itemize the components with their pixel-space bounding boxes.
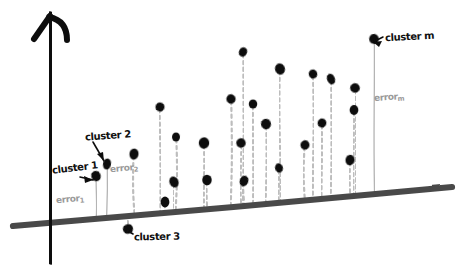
data-point-24 [349,105,358,115]
y-axis-line [50,14,51,262]
stem-21 [321,125,322,199]
data-point-22 [325,72,336,85]
data-point-5 [154,101,166,113]
data-point-1 [90,170,102,183]
data-point-9 [198,137,210,149]
data-point-20 [308,69,319,80]
stem-25 [350,162,351,196]
baseline-layer [13,187,452,226]
data-point-18 [274,162,284,173]
leader-cluster-2-arrowhead-icon [97,152,104,161]
stem-11 [231,101,232,206]
stem-2 [107,166,108,217]
data-point-7 [172,132,180,141]
stems-layer [96,41,374,231]
data-point-13 [235,138,246,149]
data-point-21 [317,118,328,129]
stem-1 [96,178,97,218]
data-point-11 [225,93,236,104]
data-point-12 [237,46,248,58]
stem-22 [331,81,332,198]
stem-19 [304,147,305,200]
data-point-23 [349,82,361,93]
stem-7 [176,139,178,211]
stem-17 [279,71,280,202]
stem-24 [353,112,354,196]
stem-16 [266,126,267,203]
data-point-16 [260,118,272,131]
sketch-canvas: cluster 1 cluster 2 cluster 3 cluster m … [0,0,463,277]
data-point-15 [249,99,258,108]
stem-14 [243,183,244,205]
data-point-6 [161,197,170,208]
sketch-svg [0,0,463,277]
stem-3 [133,156,135,215]
baseline-trend-line [13,187,452,226]
stem-13 [241,145,242,205]
stem-5 [160,109,161,212]
data-point-8 [168,175,181,189]
stem-20 [313,76,314,199]
data-point-19 [299,139,310,150]
data-point-3 [129,148,139,160]
stem-10 [206,182,207,208]
data-point-17 [274,62,287,76]
stem-8 [173,184,174,211]
stem-26 [374,41,375,194]
